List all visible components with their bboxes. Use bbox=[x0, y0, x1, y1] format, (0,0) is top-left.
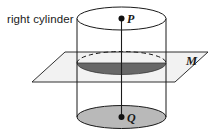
point-p-label: P bbox=[127, 13, 134, 25]
geometry-figure: right cylinder P Q M bbox=[0, 0, 215, 134]
point-p-marker bbox=[119, 16, 125, 22]
point-q-label: Q bbox=[127, 112, 136, 124]
shape-caption-label: right cylinder bbox=[7, 14, 74, 26]
point-q-marker bbox=[119, 114, 125, 120]
plane-m-label: M bbox=[186, 55, 197, 68]
